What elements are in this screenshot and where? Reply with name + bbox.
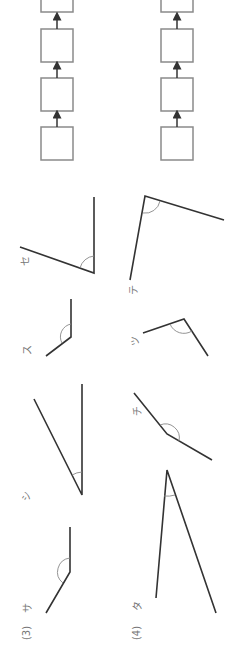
angle-label-se: セ [21, 256, 31, 266]
angle-shi [34, 384, 82, 495]
answer-box[interactable] [161, 29, 193, 62]
angle-label-ta: タ [133, 601, 143, 611]
angle-label-tsu: ツ [131, 336, 141, 346]
angle-label-shi: シ [22, 491, 32, 501]
answer-box[interactable] [41, 0, 73, 12]
problem-number-3: (3) [22, 626, 32, 640]
angle-label-te: テ [129, 285, 139, 295]
angle-tsu [143, 319, 208, 356]
angle-label-su: ス [23, 345, 33, 355]
problem-number-4: (4) [132, 626, 142, 640]
angle-sa [46, 527, 70, 613]
answer-box[interactable] [161, 0, 193, 12]
answer-box[interactable] [161, 78, 193, 111]
answer-box[interactable] [41, 127, 73, 160]
angle-se [20, 197, 94, 273]
worksheet-figure [0, 0, 248, 658]
answer-box[interactable] [41, 78, 73, 111]
angle-chi [134, 393, 212, 460]
angle-label-chi: チ [133, 406, 143, 416]
answer-chain-4 [161, 0, 193, 160]
answer-box[interactable] [41, 29, 73, 62]
angle-ta [156, 470, 216, 613]
angle-label-sa: サ [23, 603, 33, 613]
answer-chain-3 [41, 0, 73, 160]
angle-su [46, 299, 71, 356]
answer-box[interactable] [161, 127, 193, 160]
angle-te [130, 196, 224, 280]
